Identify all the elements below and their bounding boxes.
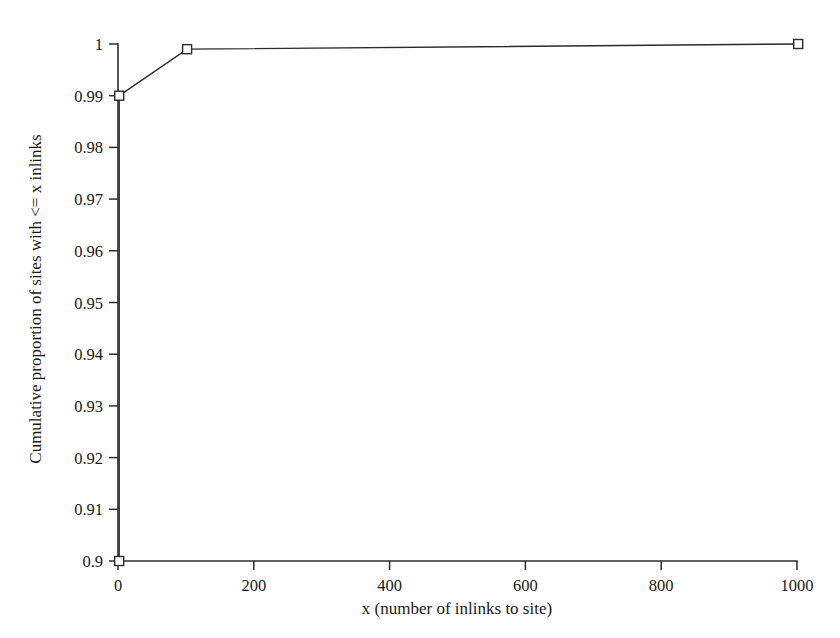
y-tick-label-0: 0.9 xyxy=(82,552,103,571)
y-tick-label-3: 0.93 xyxy=(74,397,103,416)
line-chart: Cumulative proportion of sites with <= x… xyxy=(0,0,840,638)
data-point-marker xyxy=(115,91,124,100)
y-axis-title: Cumulative proportion of sites with <= x… xyxy=(26,134,45,463)
y-tick-label-1: 0.91 xyxy=(74,500,103,519)
x-axis-ticks: 0 200 400 600 800 1000 xyxy=(114,561,814,595)
series-markers xyxy=(115,40,803,566)
y-tick-label-2: 0.92 xyxy=(74,449,103,468)
x-tick-label-5: 1000 xyxy=(781,576,814,595)
data-series xyxy=(115,40,803,566)
x-axis-title: x (number of inlinks to site) xyxy=(362,599,552,618)
y-tick-label-4: 0.94 xyxy=(74,345,103,364)
y-tick-label-6: 0.96 xyxy=(74,242,103,261)
y-tick-label-9: 0.99 xyxy=(74,87,103,106)
y-axis-ticks: 0.9 0.91 0.92 0.93 0.94 0.95 0.96 0.97 0… xyxy=(74,35,118,571)
x-tick-label-1: 200 xyxy=(241,576,266,595)
series-line xyxy=(119,44,798,561)
x-tick-label-3: 600 xyxy=(513,576,538,595)
y-tick-label-7: 0.97 xyxy=(74,190,103,209)
chart-page: Cumulative proportion of sites with <= x… xyxy=(0,0,840,638)
y-tick-label-5: 0.95 xyxy=(74,294,103,313)
data-point-marker xyxy=(794,40,803,49)
x-tick-label-2: 400 xyxy=(377,576,402,595)
data-point-marker xyxy=(115,557,124,566)
y-tick-label-10: 1 xyxy=(95,35,103,54)
data-point-marker xyxy=(183,45,192,54)
x-tick-label-4: 800 xyxy=(649,576,674,595)
y-tick-label-8: 0.98 xyxy=(74,138,103,157)
x-tick-label-0: 0 xyxy=(114,576,122,595)
